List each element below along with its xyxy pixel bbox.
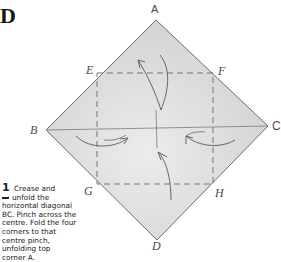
caption-line: corner A. <box>2 253 35 262</box>
instruction-caption: 1 Crease and unfold the horizontal diago… <box>2 184 102 262</box>
point-label-d: D <box>152 240 161 252</box>
point-label-b: B <box>30 124 37 136</box>
point-label-f: F <box>218 65 225 77</box>
point-label-e: E <box>86 64 93 76</box>
dash-icon <box>2 197 9 199</box>
step-number: 1 <box>2 181 10 194</box>
point-label-a: A <box>151 4 158 15</box>
point-label-h: H <box>215 187 224 199</box>
point-label-c: C <box>272 120 281 132</box>
step-letter: D <box>0 5 16 27</box>
